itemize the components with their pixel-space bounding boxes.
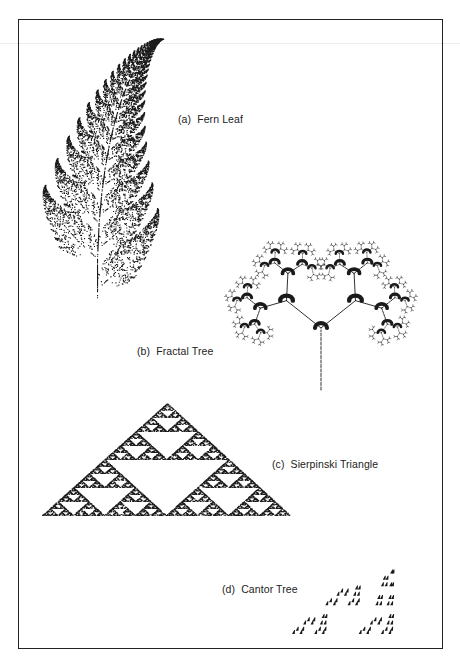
- caption-cantor-tree: (d)Cantor Tree: [222, 583, 298, 595]
- cantor-tree-illustration: [0, 0, 460, 667]
- caption-title: Cantor Tree: [241, 583, 298, 595]
- caption-tag: (d): [222, 583, 235, 595]
